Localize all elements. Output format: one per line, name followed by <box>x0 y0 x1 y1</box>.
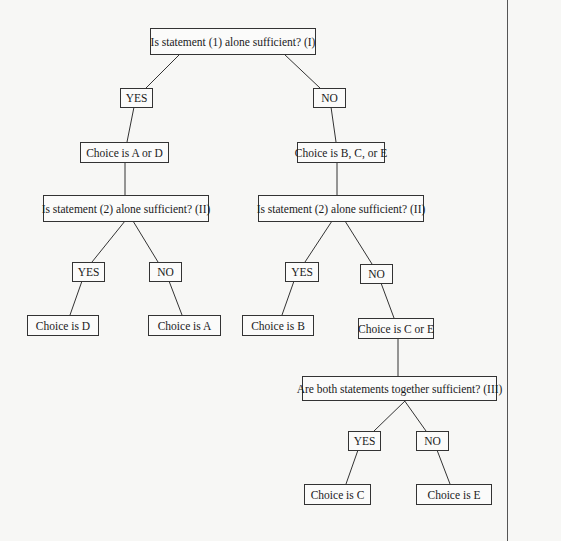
no-label-node: NO <box>416 431 449 451</box>
yes-label-node: YES <box>348 431 381 451</box>
choice-b-node: Choice is B <box>242 315 314 336</box>
decision-tree-diagram: Is statement (1) alone sufficient? (I) Y… <box>0 0 561 541</box>
choice-d-node: Choice is D <box>27 315 99 336</box>
choice-e-node: Choice is E <box>416 484 492 505</box>
question-statement-1-node: Is statement (1) alone sufficient? (I) <box>150 28 316 55</box>
choice-a-or-d-node: Choice is A or D <box>80 142 169 163</box>
choice-b-c-or-e-node: Choice is B, C, or E <box>297 142 385 163</box>
yes-label-node: YES <box>72 262 105 282</box>
yes-label-node: YES <box>120 88 153 108</box>
choice-c-node: Choice is C <box>304 484 371 505</box>
no-label-node: NO <box>313 88 346 108</box>
question-statement-2-right-node: Is statement (2) alone sufficient? (II) <box>258 195 424 222</box>
no-label-node: NO <box>149 262 182 282</box>
question-both-statements-node: Are both statements together sufficient?… <box>302 376 497 401</box>
no-label-node: NO <box>360 264 393 284</box>
question-statement-2-left-node: Is statement (2) alone sufficient? (II) <box>43 195 209 222</box>
yes-label-node: YES <box>285 262 319 282</box>
choice-a-node: Choice is A <box>148 315 221 336</box>
page-margin-rule <box>507 0 508 541</box>
choice-c-or-e-node: Choice is C or E <box>358 318 434 339</box>
